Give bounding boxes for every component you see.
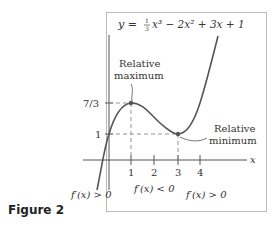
relative-min-point [176, 132, 180, 136]
sign-label-left: f′(x) > 0 [70, 189, 112, 200]
max-label-line1: Relative [119, 58, 160, 69]
y-tick-1: 1 [95, 129, 101, 140]
sign-label-middle: f′(x) < 0 [133, 183, 175, 194]
equation-frac-num: 1 [145, 17, 149, 24]
x-tick-3: 3 [175, 167, 181, 178]
x-tick-4: 4 [197, 167, 203, 178]
x-axis-label: x [250, 154, 256, 165]
equation-rhs: x³ − 2x² + 3x + 1 [152, 18, 245, 30]
min-leader-line [180, 137, 207, 141]
min-label-line1: Relative [214, 123, 255, 134]
max-label-line2: maximum [114, 70, 164, 81]
x-tick-2: 2 [151, 167, 157, 178]
equation-lhs: y = [117, 18, 137, 31]
relative-max-point [129, 101, 133, 105]
x-tick-1: 1 [128, 167, 134, 178]
min-label-line2: minimum [209, 135, 257, 146]
y-tick-7-3: 7/3 [83, 98, 99, 109]
function-graph: y = 1 3 x³ − 2x² + 3x + 1 x 7/3 1 1 2 3 … [0, 0, 278, 230]
max-leader-line [131, 84, 132, 101]
equation-frac-den: 3 [145, 25, 149, 32]
sign-label-right: f′(x) > 0 [185, 189, 227, 200]
